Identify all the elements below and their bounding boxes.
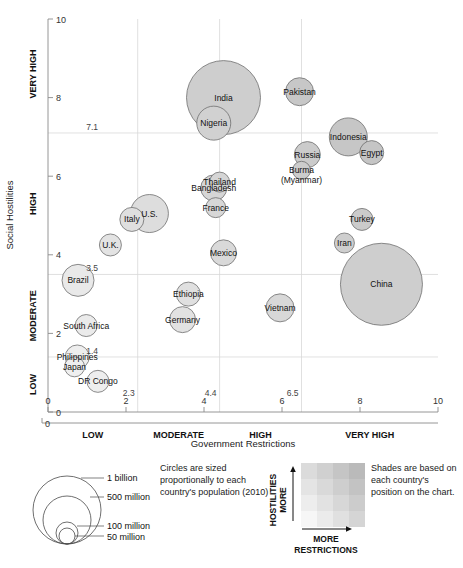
x-axis-title: Government Restrictions <box>191 438 296 449</box>
shade-y-caption-line2: HOSTILITIES <box>268 473 278 526</box>
chart-svg: IndiaNigeriaPakistanIndonesiaEgyptRussia… <box>0 0 463 568</box>
size-legend-note: Circles are sized proportionally to each… <box>160 462 270 498</box>
y-tick-label-2: 2 <box>56 329 61 339</box>
y-tick-label-0: 0 <box>56 408 61 418</box>
shade-cell-r1-c0 <box>301 479 317 495</box>
bubble-label-france: France <box>202 203 229 213</box>
bubble-label-text: Germany <box>165 315 201 325</box>
bubble-label-text: Japan <box>63 362 86 372</box>
bubble-label-text: Mexico <box>210 248 237 258</box>
bubble-label-text: Ethiopia <box>173 289 204 299</box>
bubble-label-text: China <box>370 279 392 289</box>
shade-cell-r2-c2 <box>333 495 349 511</box>
bubble-label-pakistan: Pakistan <box>283 87 316 97</box>
bubble-label-germany: Germany <box>165 315 201 325</box>
x-tick-label-6: 6 <box>279 396 284 406</box>
shade-cell-r3-c3 <box>349 511 365 527</box>
bubble-label-text: South Africa <box>63 321 109 331</box>
bubble-label-text: Indonesia <box>330 132 367 142</box>
y-threshold-label-7.1: 7.1 <box>86 122 98 132</box>
restrictions-arrow-head <box>346 526 352 532</box>
shade-cell-r0-c3 <box>349 463 365 479</box>
shade-x-caption-line2: RESTRICTIONS <box>294 545 358 555</box>
bubble-label-text: Bangladesh <box>191 183 236 193</box>
bubble-label-mexico: Mexico <box>210 248 237 258</box>
shade-legend-grid <box>301 463 365 527</box>
shade-y-caption-line1: MORE <box>278 487 288 513</box>
hostilities-arrow-head <box>290 466 296 472</box>
bubble-label-text: Vietnam <box>265 303 296 313</box>
bubble-label-u-k: U.K. <box>102 240 119 250</box>
bubble-label-text: Iran <box>337 238 352 248</box>
bubble-label-indonesia: Indonesia <box>330 132 367 142</box>
bubble-label-ethiopia: Ethiopia <box>173 289 204 299</box>
legend-label-50-million: 50 million <box>107 532 145 542</box>
x-tick-label-10: 10 <box>433 396 443 406</box>
shade-cell-r1-c3 <box>349 479 365 495</box>
x-band-label-very-high: VERY HIGH <box>345 430 394 440</box>
y-tick-label-10: 10 <box>56 15 66 25</box>
x-threshold-label-2.3: 2.3 <box>123 388 135 398</box>
y-axis-title: Social Hostilities <box>4 180 15 249</box>
bubble-label-china: China <box>370 279 392 289</box>
y-band-label-moderate: MODERATE <box>28 290 38 341</box>
bubble-label-india: India <box>214 93 233 103</box>
shade-cell-r1-c2 <box>333 479 349 495</box>
shade-cell-r2-c3 <box>349 495 365 511</box>
bubble-label-text: India <box>214 93 233 103</box>
shade-cell-r1-c1 <box>317 479 333 495</box>
y-tick-label-4: 4 <box>56 250 61 260</box>
shade-cell-r3-c0 <box>301 511 317 527</box>
bubble-label-text: Pakistan <box>283 87 316 97</box>
shade-cell-r2-c0 <box>301 495 317 511</box>
y-band-label-low: LOW <box>28 373 38 394</box>
size-legend-note-wrap: Circles are sized proportionally to each… <box>160 462 270 532</box>
shade-cell-r2-c1 <box>317 495 333 511</box>
bubble-label-brazil: Brazil <box>67 275 88 285</box>
x-tick-label-8: 8 <box>357 396 362 406</box>
bubble-label-text: France <box>202 203 229 213</box>
bubble-label-iran: Iran <box>337 238 352 248</box>
bubble-label-vietnam: Vietnam <box>265 303 296 313</box>
shade-legend-note-wrap: Shades are based on each country's posit… <box>371 462 459 522</box>
bubble-label-text: DR Congo <box>78 376 118 386</box>
bubbles-group <box>62 61 422 393</box>
legend-label-1-billion: 1 billion <box>107 473 138 483</box>
y-tick-label-6: 6 <box>56 172 61 182</box>
legend-circle-500-million <box>43 496 91 544</box>
x-tick-label-0: 0 <box>45 396 50 406</box>
y-threshold-label-1.4: 1.4 <box>86 346 98 356</box>
bubble-label-japan: Japan <box>63 362 86 372</box>
bubble-label-egypt: Egypt <box>361 148 383 158</box>
bubble-label-text: Nigeria <box>200 118 227 128</box>
bubble-label-text: Italy <box>124 214 140 224</box>
x-band-label-low: LOW <box>82 430 103 440</box>
bubble-label-russia: Russia <box>294 150 320 160</box>
size-legend: 1 billion 500 million 100 million 50 mil… <box>33 473 150 544</box>
legend-circle-1-billion <box>33 476 101 544</box>
bubble-label-text: Brazil <box>67 275 88 285</box>
shade-cell-r0-c0 <box>301 463 317 479</box>
legend-label-500-million: 500 million <box>107 492 150 502</box>
bubble-label-text: (Myanmar) <box>281 175 322 185</box>
x-threshold-label-6.5: 6.5 <box>287 388 299 398</box>
bubble-label-south-africa: South Africa <box>63 321 109 331</box>
bubble-label-text: Russia <box>294 150 320 160</box>
shade-cell-r3-c1 <box>317 511 333 527</box>
bubble-label-nigeria: Nigeria <box>200 118 227 128</box>
y-tick-label-8: 8 <box>56 93 61 103</box>
x-threshold-label-4.4: 4.4 <box>205 388 217 398</box>
legend-circle-50-million <box>59 528 75 544</box>
legend-label-100-million: 100 million <box>107 521 150 531</box>
bubble-label-bangladesh: Bangladesh <box>191 183 236 193</box>
bubble-label-text: U.S. <box>141 209 158 219</box>
shade-x-caption-line1: MORE <box>313 534 339 544</box>
bubble-label-u-s: U.S. <box>141 209 158 219</box>
y-threshold-label-3.5: 3.5 <box>86 263 98 273</box>
bubble-label-turkey: Turkey <box>349 214 375 224</box>
bubble-label-dr-congo: DR Congo <box>78 376 118 386</box>
shade-legend-note: Shades are based on each country's posit… <box>371 462 459 498</box>
bubble-label-italy: Italy <box>124 214 140 224</box>
bubble-label-burma: Burma(Myanmar) <box>281 165 322 185</box>
bubble-label-text: U.K. <box>102 240 119 250</box>
